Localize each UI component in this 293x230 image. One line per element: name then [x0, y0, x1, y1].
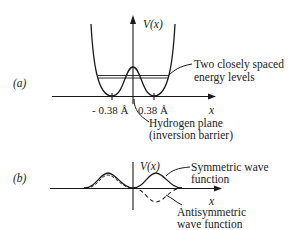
- annotation-symmetric-line1: Symmetric wave: [191, 161, 269, 173]
- annotation-hydrogen-plane-line1: Hydrogen plane: [149, 117, 223, 129]
- tick-label-left: - 0.38 Å: [92, 104, 128, 116]
- panel-a-label: (a): [13, 77, 26, 89]
- leader-energy-levels: [168, 64, 192, 76]
- annotation-antisymmetric-line2: wave function: [177, 218, 242, 230]
- y-axis-label-a: V(x): [143, 18, 163, 30]
- annotation-energy-levels-line2: energy levels: [194, 71, 255, 83]
- y-axis-label-b: V(x): [140, 160, 160, 172]
- leader-antisymmetric: [166, 195, 182, 205]
- antisymmetric-wave-function-left: [86, 175, 133, 188]
- panel-a-graphics: [52, 15, 216, 122]
- annotation-energy-levels-line1: Two closely spaced: [194, 58, 284, 70]
- panel-b-label: (b): [13, 172, 26, 184]
- annotation-hydrogen-plane-line2: (inversion barrier): [149, 129, 233, 141]
- annotation-symmetric-line2: function: [191, 173, 229, 185]
- x-axis-label-a: x: [209, 104, 214, 116]
- leader-symmetric: [166, 167, 190, 176]
- tick-label-right: 0.38 Å: [138, 104, 168, 116]
- x-axis-arrow-a: [208, 94, 216, 100]
- x-axis-arrow-b: [214, 186, 222, 192]
- annotation-antisymmetric-line1: Antisymmetric: [177, 206, 246, 218]
- y-axis-arrow-a: [130, 15, 136, 24]
